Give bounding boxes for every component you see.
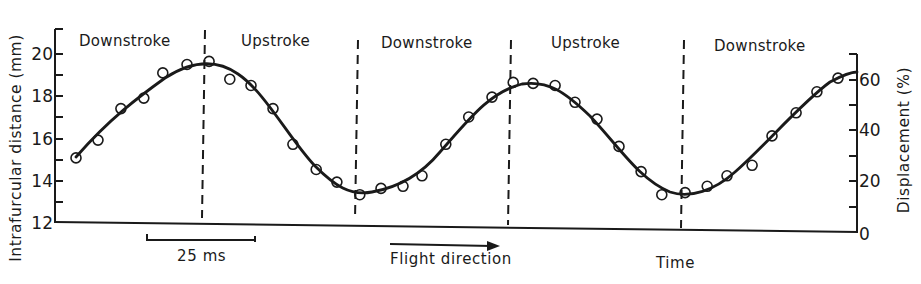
tick-label: 0 (859, 224, 870, 244)
tick-label: 12 (31, 213, 53, 233)
phase-label-downstroke: Downstroke (79, 32, 171, 50)
data-point (747, 160, 757, 170)
tick-label: 16 (31, 129, 53, 149)
flight-direction-label: Flight direction (390, 250, 512, 268)
right-y-tick-labels: 60 40 20 0 (859, 70, 881, 244)
tick-label: 60 (859, 70, 881, 90)
phase-label-upstroke: Upstroke (241, 32, 310, 50)
phase-labels: Downstroke Upstroke Downstroke Upstroke … (79, 32, 806, 55)
phase-dividers (202, 30, 684, 228)
left-y-axis (55, 29, 63, 223)
tick-label: 14 (31, 171, 53, 191)
left-y-axis-title: Intrafurcular distance (mm) (7, 34, 25, 262)
scale-bar-label: 25 ms (177, 247, 226, 265)
phase-divider (508, 40, 511, 225)
fitted-curve (76, 64, 857, 195)
right-y-axis-title: Displacement (%) (895, 67, 913, 213)
scale-bar (147, 234, 255, 242)
phase-divider (681, 40, 684, 228)
tick-label: 40 (859, 120, 881, 140)
right-y-axis (849, 54, 857, 233)
data-point (417, 171, 427, 181)
tick-label: 20 (859, 171, 881, 191)
x-axis-title: Time (655, 254, 695, 272)
data-point (158, 68, 168, 78)
phase-label-downstroke: Downstroke (381, 34, 473, 52)
data-point (657, 190, 667, 200)
phase-label-upstroke: Upstroke (551, 34, 620, 52)
x-axis-line (55, 222, 858, 232)
intrafurcular-distance-chart: 20 18 16 14 12 Intrafurcular distance (m… (0, 0, 921, 284)
tick-label: 18 (31, 86, 53, 106)
left-y-tick-labels: 20 18 16 14 12 (31, 44, 53, 233)
data-point (225, 74, 235, 84)
phase-label-downstroke: Downstroke (714, 37, 806, 55)
tick-label: 20 (31, 44, 53, 64)
data-point (93, 135, 103, 145)
